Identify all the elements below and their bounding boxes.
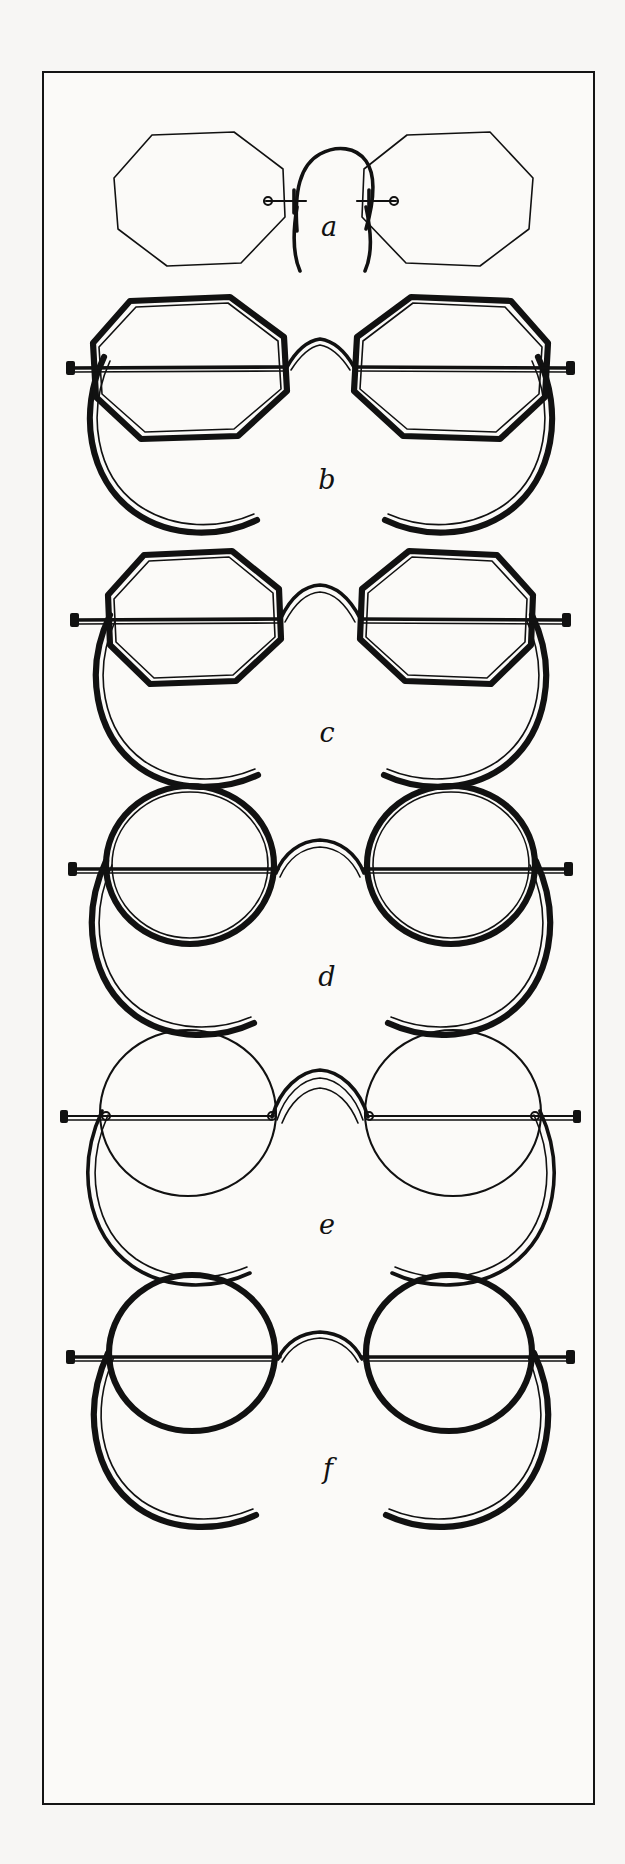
bridge-inner-e	[282, 1088, 358, 1123]
temple-arm-left-c	[96, 615, 258, 787]
lens-right-outline-a	[362, 132, 533, 266]
temple-tip-left-e	[60, 1110, 68, 1123]
temple-bar-right-highlight-b	[357, 371, 567, 372]
temple-bar-left-c	[74, 619, 281, 620]
temple-arm-right-b	[385, 357, 552, 533]
temple-tip-right-f	[566, 1350, 575, 1364]
bridge-f	[278, 1332, 362, 1359]
temple-arm-right-f	[386, 1353, 548, 1527]
lens-right-outline-e	[365, 1030, 541, 1196]
temple-tip-right-b	[566, 361, 575, 375]
bridge-tail-right-a	[365, 207, 370, 271]
temple-bar-left-highlight-c	[78, 623, 278, 624]
temple-tip-right-e	[573, 1110, 581, 1123]
figure-d: d	[44, 769, 597, 1054]
lens-left-outline-f	[109, 1275, 275, 1431]
temple-bar-right-highlight-c	[363, 623, 563, 624]
bridge-c	[281, 585, 360, 618]
temple-arm-left-f	[94, 1353, 256, 1527]
figure-c: c	[44, 523, 597, 808]
figure-label-b: b	[307, 466, 347, 493]
temple-bar-right-c	[360, 619, 567, 620]
temple-tip-left-b	[66, 361, 75, 375]
temple-bar-highlight-b	[74, 371, 284, 372]
lens-left-outline-a	[114, 132, 285, 266]
lens-right-outline-f	[366, 1275, 532, 1431]
temple-arm-left-b	[90, 357, 257, 533]
lens-left-outline-d	[106, 786, 274, 944]
temple-arm-right-c	[384, 615, 546, 787]
temple-tip-left-c	[70, 613, 79, 627]
figure-b: b	[44, 271, 597, 556]
lens-left-outline-e	[100, 1030, 276, 1196]
bridge-tail-left-a	[294, 207, 300, 271]
figure-label-c: c	[307, 719, 347, 746]
figure-label-a: a	[309, 213, 349, 240]
figure-label-f: f	[308, 1455, 348, 1482]
lens-left-inner-d	[112, 792, 268, 938]
figure-a: a	[44, 83, 597, 298]
lens-right-inner-d	[373, 792, 529, 938]
bridge-d	[276, 840, 364, 873]
figure-e: e	[44, 1013, 597, 1298]
temple-tip-left-f	[66, 1350, 75, 1364]
figure-f: f	[44, 1259, 597, 1544]
temple-tip-left-d	[68, 862, 77, 876]
illustration-plate: a	[0, 0, 625, 1864]
figure-label-d: d	[307, 963, 347, 990]
plate-border-rule: a	[42, 71, 595, 1805]
temple-tip-right-c	[562, 613, 571, 627]
bridge-e	[272, 1070, 368, 1117]
temple-tip-right-d	[564, 862, 573, 876]
temple-bar-right-b	[354, 367, 571, 368]
temple-bar-b	[70, 367, 287, 368]
lens-right-outline-d	[367, 786, 535, 944]
figure-label-e: e	[307, 1211, 347, 1238]
